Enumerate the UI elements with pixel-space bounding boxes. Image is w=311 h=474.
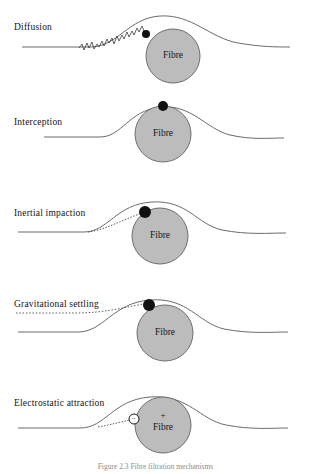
panel-label-inertial-impaction: Inertial impaction xyxy=(14,208,85,218)
fibre-charge-plus: + xyxy=(160,410,165,420)
particle-dot xyxy=(139,206,151,218)
panel-label-gravitational-settling: Gravitational settling xyxy=(14,299,99,309)
panel-interception: Fibre Interception xyxy=(0,95,311,190)
panel-label-diffusion: Diffusion xyxy=(14,22,52,32)
fibre-label: Fibre xyxy=(153,422,173,432)
panel-electrostatic-attraction: + Fibre − Electrostatic attraction xyxy=(0,380,311,474)
particle-charge-minus: − xyxy=(132,415,136,423)
panel-gravitational-settling: Fibre Gravitational settling xyxy=(0,285,311,380)
fibre-label: Fibre xyxy=(153,128,173,138)
particle-dot xyxy=(158,101,168,111)
fibre-label: Fibre xyxy=(163,50,183,60)
panel-label-interception: Interception xyxy=(14,117,62,127)
figure-caption: Figure 2.3 Fibre filtration mechanisms xyxy=(0,462,311,471)
panel-diffusion: Fibre Diffusion xyxy=(0,0,311,95)
fibre-label: Fibre xyxy=(150,230,170,240)
particle-dot xyxy=(142,30,150,38)
particle-dot xyxy=(143,299,155,311)
panel-inertial-impaction: Fibre Inertial impaction xyxy=(0,190,311,285)
panel-label-electrostatic-attraction: Electrostatic attraction xyxy=(14,398,105,408)
random-walk-path xyxy=(79,26,144,50)
particle-trajectory-dotted xyxy=(98,420,130,427)
fibre-label: Fibre xyxy=(155,327,175,337)
